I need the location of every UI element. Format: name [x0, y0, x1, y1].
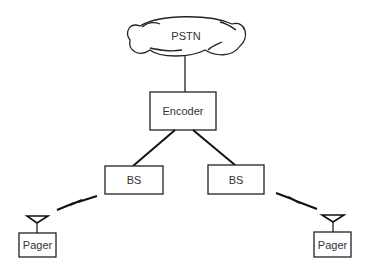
pager-left-label: Pager	[23, 239, 53, 251]
bs-right-node: BS	[208, 165, 264, 194]
encoder-label: Encoder	[163, 105, 204, 117]
paging-network-diagram: PSTN Encoder BS BS	[0, 0, 370, 276]
pager-left-node: Pager	[19, 233, 56, 257]
encoder-bs-left-link	[133, 130, 175, 166]
encoder-bs-right-link	[193, 130, 235, 165]
pager-right-node: Pager	[314, 232, 351, 257]
wireless-link-right-icon	[276, 193, 317, 209]
wireless-link-left-icon	[57, 196, 97, 210]
pager-right-label: Pager	[318, 239, 348, 251]
bs-right-label: BS	[229, 174, 244, 186]
pstn-cloud: PSTN	[128, 17, 246, 56]
antenna-right-icon	[322, 215, 344, 232]
antenna-left-icon	[27, 216, 48, 233]
bs-left-node: BS	[105, 166, 163, 194]
bs-left-label: BS	[127, 174, 142, 186]
encoder-node: Encoder	[150, 92, 216, 130]
pstn-label: PSTN	[171, 30, 200, 42]
